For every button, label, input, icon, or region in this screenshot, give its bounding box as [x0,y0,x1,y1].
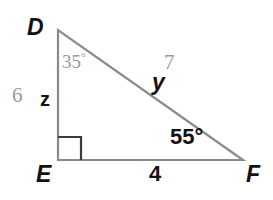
vertex-label-f: F [246,163,260,186]
angle-label-d: 35° [62,51,86,71]
right-angle-marker [58,137,81,160]
angle-d-value: 35 [62,51,81,72]
side-df-given-length: 7 [164,52,175,73]
side-ef-length-label: 4 [149,163,161,185]
side-de-variable-label: z [40,89,50,109]
side-df-variable-label: y [152,71,165,94]
vertex-label-d: D [27,16,44,39]
angle-label-f: 55° [170,126,203,148]
vertex-label-e: E [36,163,51,186]
side-de-given-length: 6 [12,85,23,106]
triangle-figure: D E F 35° 6 z 7 y 55° 4 [0,0,273,200]
degree-symbol-icon: ° [81,50,86,64]
